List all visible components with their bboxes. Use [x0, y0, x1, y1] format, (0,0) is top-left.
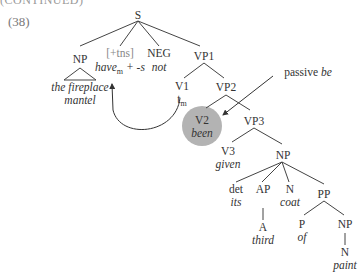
node-det: det: [229, 183, 243, 196]
node-VP2: VP2: [216, 81, 236, 94]
leaf-third: third: [252, 234, 274, 247]
leaf-given: given: [216, 158, 241, 171]
node-A: A: [259, 221, 267, 234]
node-NEG: NEG: [147, 47, 171, 60]
node-N-paint: N: [341, 246, 349, 259]
leaf-been: been: [191, 127, 213, 140]
node-N: N: [286, 183, 294, 196]
node-NP-subject: NP: [73, 53, 88, 66]
leaf-paint: paint: [333, 259, 357, 272]
node-S: S: [135, 9, 141, 22]
node-P: P: [299, 218, 305, 231]
leaf-the-fireplace: the fireplace: [51, 81, 108, 94]
node-V1: V1: [175, 80, 189, 93]
node-PP: PP: [318, 188, 331, 201]
leaf-coat: coat: [280, 196, 300, 209]
node-VP1: VP1: [194, 50, 214, 63]
leaf-trace: tm: [177, 93, 186, 110]
annotation-passive-be: passive be: [284, 66, 332, 79]
node-V3: V3: [221, 145, 235, 158]
node-AP: AP: [256, 183, 271, 196]
node-NP-object: NP: [276, 149, 291, 162]
node-V2: V2: [195, 114, 209, 127]
leaf-not: not: [152, 61, 167, 74]
leaf-have-s: havem + -s: [95, 61, 145, 78]
leaf-of: of: [298, 231, 307, 244]
node-tense: [+tns]: [106, 47, 134, 60]
node-NP-pp: NP: [338, 218, 353, 231]
leaf-its: its: [231, 196, 242, 209]
leaf-mantel: mantel: [64, 94, 95, 107]
node-VP3: VP3: [244, 115, 264, 128]
